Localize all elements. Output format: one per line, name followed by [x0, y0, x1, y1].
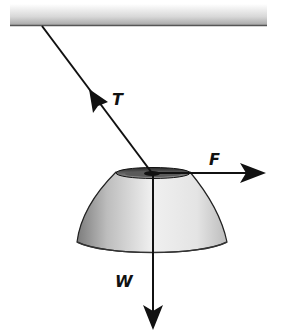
tension-vector: [42, 26, 152, 173]
weight-label: W: [115, 274, 133, 290]
tension-label: T: [112, 92, 123, 108]
free-body-diagram: [0, 0, 288, 333]
ceiling: [10, 4, 267, 26]
force-f-label: F: [209, 152, 220, 168]
